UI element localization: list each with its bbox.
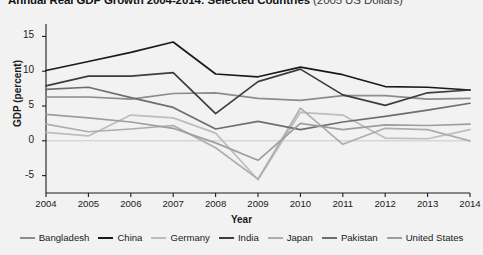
legend-label: United States <box>406 232 464 243</box>
legend-item-japan[interactable]: Japan <box>268 232 313 243</box>
legend-label: Germany <box>170 232 209 243</box>
legend-swatch-icon <box>322 237 337 239</box>
legend-label: Pakistan <box>341 232 378 243</box>
series-line-germany <box>46 112 470 179</box>
chart-legend: BangladeshChinaGermanyIndiaJapanPakistan… <box>0 232 483 243</box>
legend-item-pakistan[interactable]: Pakistan <box>322 232 378 243</box>
legend-item-germany[interactable]: Germany <box>151 232 209 243</box>
gdp-growth-line-chart: Annual Real GDP Growth 2004-2014: Select… <box>0 0 483 255</box>
legend-item-china[interactable]: China <box>98 232 142 243</box>
legend-swatch-icon <box>268 237 283 239</box>
legend-swatch-icon <box>219 237 234 239</box>
legend-label: Japan <box>287 232 313 243</box>
legend-swatch-icon <box>151 237 166 239</box>
series-line-japan <box>46 108 470 179</box>
plot-area <box>0 0 483 255</box>
legend-item-india[interactable]: India <box>219 232 259 243</box>
legend-label: India <box>238 232 259 243</box>
legend-item-united-states[interactable]: United States <box>387 232 464 243</box>
legend-swatch-icon <box>387 237 402 239</box>
legend-item-bangladesh[interactable]: Bangladesh <box>20 232 90 243</box>
series-line-china <box>46 42 470 90</box>
series-line-pakistan <box>46 87 470 129</box>
series-line-india <box>46 69 470 114</box>
legend-swatch-icon <box>98 237 113 239</box>
legend-label: China <box>117 232 142 243</box>
legend-swatch-icon <box>20 237 35 239</box>
legend-label: Bangladesh <box>39 232 90 243</box>
